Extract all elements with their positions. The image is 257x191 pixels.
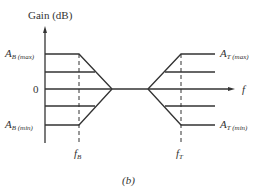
x-axis-label: f — [242, 83, 247, 95]
label-fb: fB — [74, 147, 82, 161]
zero-label: 0 — [33, 83, 39, 95]
figure-caption: (b) — [122, 174, 135, 187]
label-ft: fT — [176, 147, 184, 161]
y-axis-arrow — [43, 26, 47, 33]
label-ab-min: AB (min) — [4, 118, 34, 132]
tone-control-diagram: Gain (dB) AB (max) 0 AB (min) AT (max) f… — [0, 0, 257, 191]
label-ab-max: AB (max) — [4, 47, 35, 61]
x-axis-arrow — [228, 87, 235, 91]
label-at-max: AT (max) — [219, 47, 249, 61]
label-at-min: AT (min) — [219, 118, 248, 132]
y-axis-label: Gain (dB) — [28, 9, 73, 22]
